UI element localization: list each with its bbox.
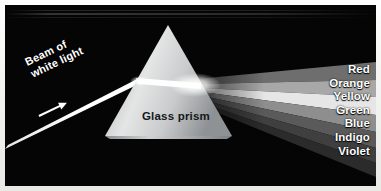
prism-dispersion-figure: Beam of white light Glass prism Red Oran…: [0, 0, 381, 191]
entry-hotspot: [130, 76, 148, 86]
illustration-canvas: Beam of white light Glass prism Red Oran…: [5, 5, 376, 186]
dispersion-hotspot: [169, 73, 221, 97]
spectrum-fan: [197, 62, 376, 177]
prism-base-edge: [105, 136, 232, 139]
scene-graphics: [5, 5, 376, 186]
glass-prism-label: Glass prism: [130, 110, 222, 122]
arrow-right-icon: [37, 99, 68, 119]
